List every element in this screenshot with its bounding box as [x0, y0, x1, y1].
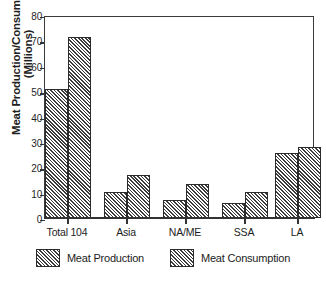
x-category-label: Asia [116, 226, 136, 238]
bar-production [45, 89, 68, 218]
x-category-label: NA/ME [169, 226, 201, 238]
plot-area: 01020304050607080 [44, 16, 314, 219]
bar-consumption [186, 184, 209, 219]
bar-production [104, 192, 127, 218]
y-tick-label: 20 [31, 163, 42, 174]
y-tick-label: 30 [31, 138, 42, 149]
bar-production [163, 200, 186, 218]
legend-item-consumption[interactable]: Meat Consumption [170, 249, 290, 267]
y-tick-label: 70 [31, 36, 42, 47]
bar-production [275, 153, 298, 218]
y-axis-title-line-1: Meat Production/Consumption [10, 0, 22, 135]
chart-legend: Meat ProductionMeat Consumption [0, 249, 326, 267]
legend-label: Meat Consumption [201, 252, 290, 264]
y-tick-label: 0 [37, 214, 42, 225]
y-tick-label: 50 [31, 87, 42, 98]
legend-swatch-icon [36, 249, 60, 267]
x-category-label: SSA [234, 226, 254, 238]
bar-consumption [127, 175, 150, 218]
bar-consumption [298, 147, 321, 218]
bar-consumption [245, 192, 268, 218]
legend-item-production[interactable]: Meat Production [36, 249, 144, 267]
bar-chart-figure: Meat Production/Consumption (Million Met… [0, 0, 326, 281]
bar-consumption [68, 37, 91, 218]
y-tick-label: 60 [31, 62, 42, 73]
x-axis-line [44, 217, 315, 219]
y-tick-label: 10 [31, 189, 42, 200]
y-tick-label: 80 [31, 11, 42, 22]
x-category-label: LA [291, 226, 303, 238]
y-tick-label: 40 [31, 113, 42, 124]
legend-swatch-icon [170, 249, 194, 267]
legend-label: Meat Production [67, 252, 144, 264]
x-category-label: Total 104 [47, 226, 88, 238]
bar-production [222, 203, 245, 218]
